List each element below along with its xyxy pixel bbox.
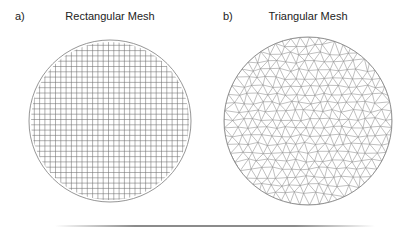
mesh-figure [0,0,415,230]
bottom-rule [55,225,375,227]
rectangular-mesh [29,40,191,202]
triangular-mesh [213,27,402,211]
